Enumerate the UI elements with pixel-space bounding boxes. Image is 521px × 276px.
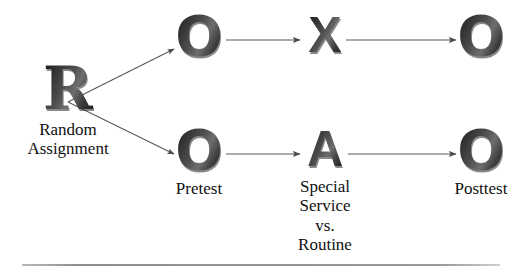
caption-line: Service — [298, 196, 352, 215]
node-posttest-control: O Posttest — [450, 122, 512, 198]
node-treatment: X — [298, 10, 352, 60]
symbol-o: O — [175, 8, 223, 64]
node-pretest-control: O Pretest — [168, 122, 230, 198]
symbol-o: O — [457, 8, 505, 64]
node-posttest-treatment: O — [450, 8, 512, 64]
caption-line: Assignment — [27, 139, 108, 158]
baseline-divider — [22, 264, 500, 266]
node-pretest-treatment: O — [168, 8, 230, 64]
symbol-x: X — [308, 10, 341, 60]
symbol-a: A — [307, 124, 343, 174]
caption-comparison-condition: Special Service vs. Routine — [298, 177, 352, 255]
research-design-diagram: R Random Assignment O X O O Pretest A Sp… — [0, 0, 521, 276]
caption-line: Special — [298, 177, 352, 196]
symbol-r: R — [43, 58, 93, 118]
symbol-o: O — [175, 122, 223, 178]
caption-line: Routine — [298, 235, 352, 254]
node-random-assignment: R Random Assignment — [12, 58, 124, 159]
caption-random-assignment: Random Assignment — [27, 120, 108, 159]
symbol-o: O — [457, 122, 505, 178]
node-comparison-condition: A Special Service vs. Routine — [296, 124, 354, 255]
caption-line: vs. — [298, 216, 352, 235]
